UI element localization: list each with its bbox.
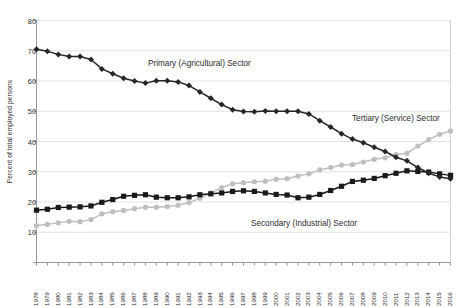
x-tick-label: 2003 xyxy=(304,292,311,306)
x-tick-label: 2008 xyxy=(359,292,366,306)
x-axis-tick-labels: 1978197919801981198219831984198519861987… xyxy=(0,0,475,308)
x-tick-label: 1998 xyxy=(250,292,257,306)
x-tick-label: 2014 xyxy=(424,292,431,306)
series-annotation-label: Secondary (Industrial) Sector xyxy=(251,219,357,228)
chart-container: Percent of total employed persons 102030… xyxy=(0,0,475,308)
x-tick-label: 2016 xyxy=(446,292,453,306)
x-tick-label: 1981 xyxy=(65,292,72,306)
x-tick-label: 1986 xyxy=(119,292,126,306)
x-tick-label: 1985 xyxy=(108,292,115,306)
x-tick-label: 1983 xyxy=(87,292,94,306)
series-annotation-label: Tertiary (Service) Sector xyxy=(352,114,440,123)
x-tick-label: 1987 xyxy=(130,292,137,306)
x-tick-label: 1994 xyxy=(206,292,213,306)
x-tick-label: 1988 xyxy=(141,292,148,306)
x-tick-label: 1978 xyxy=(32,292,39,306)
x-tick-label: 2015 xyxy=(435,292,442,306)
x-tick-label: 1990 xyxy=(163,292,170,306)
x-tick-label: 2005 xyxy=(326,292,333,306)
x-tick-label: 1997 xyxy=(239,292,246,306)
x-tick-label: 2001 xyxy=(283,292,290,306)
x-tick-label: 2009 xyxy=(370,292,377,306)
series-annotation-label: Primary (Agricultural) Sector xyxy=(148,59,251,68)
x-tick-label: 1980 xyxy=(54,292,61,306)
x-tick-label: 2012 xyxy=(403,292,410,306)
x-tick-label: 2013 xyxy=(413,292,420,306)
x-tick-label: 1984 xyxy=(97,292,104,306)
x-tick-label: 1992 xyxy=(185,292,192,306)
x-tick-label: 2000 xyxy=(272,292,279,306)
x-tick-label: 1982 xyxy=(76,292,83,306)
x-tick-label: 2011 xyxy=(392,293,399,306)
x-tick-label: 1995 xyxy=(217,292,224,306)
x-tick-label: 1993 xyxy=(196,292,203,306)
x-tick-label: 1996 xyxy=(228,292,235,306)
x-tick-label: 1979 xyxy=(43,292,50,306)
x-tick-label: 1999 xyxy=(261,292,268,306)
x-tick-label: 2010 xyxy=(381,292,388,306)
x-tick-label: 2007 xyxy=(348,292,355,306)
x-tick-label: 1989 xyxy=(152,292,159,306)
x-tick-label: 1991 xyxy=(174,292,181,306)
x-tick-label: 2002 xyxy=(294,292,301,306)
x-tick-label: 2006 xyxy=(337,292,344,306)
x-tick-label: 2004 xyxy=(315,292,322,306)
